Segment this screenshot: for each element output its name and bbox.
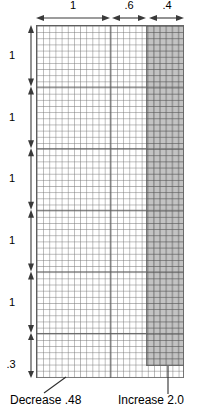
decrease-callout-label: Decrease .48 <box>10 393 81 407</box>
callout-leader-lines <box>0 0 198 413</box>
increase-callout-label: Increase 2.0 <box>118 393 184 407</box>
dimension-diagram: 1 .6 .4 1 1 1 1 1 .3 <box>0 0 198 413</box>
